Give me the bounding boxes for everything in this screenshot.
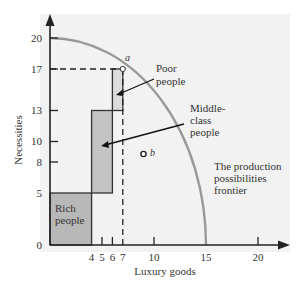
middle-class-rect (92, 111, 113, 194)
x-tick-6: 6 (110, 251, 116, 263)
point-a (120, 66, 125, 71)
x-tick-20: 20 (253, 251, 265, 263)
point-a-label: a (125, 52, 130, 63)
point-b (141, 151, 146, 156)
x-tick-15: 15 (201, 251, 213, 263)
y-tick-8: 8 (37, 156, 43, 168)
y-tick-17: 17 (31, 63, 43, 75)
y-tick-10: 10 (31, 135, 43, 147)
x-tick-10: 10 (149, 251, 161, 263)
y-tick-5: 5 (37, 187, 43, 199)
ppf-chart: 20 17 13 10 8 5 0 4 5 6 7 10 15 20 Luxur… (0, 0, 299, 287)
y-tick-20: 20 (31, 32, 43, 44)
x-tick-7: 7 (120, 251, 126, 263)
x-tick-5: 5 (99, 251, 105, 263)
y-axis-title: Necessities (12, 115, 24, 164)
y-tick-0: 0 (37, 239, 43, 251)
poor-people-rect (112, 69, 122, 111)
x-tick-4: 4 (89, 251, 95, 263)
point-b-label: b (150, 147, 155, 158)
y-tick-13: 13 (31, 104, 43, 116)
x-axis-title: Luxury goods (134, 265, 195, 277)
